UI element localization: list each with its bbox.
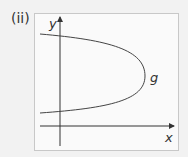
x-axis-label: x [164, 130, 173, 145]
y-axis-label: y [48, 16, 57, 31]
curve-label: g [150, 70, 158, 85]
graph: y x g [0, 0, 188, 157]
curve-g [40, 34, 145, 113]
